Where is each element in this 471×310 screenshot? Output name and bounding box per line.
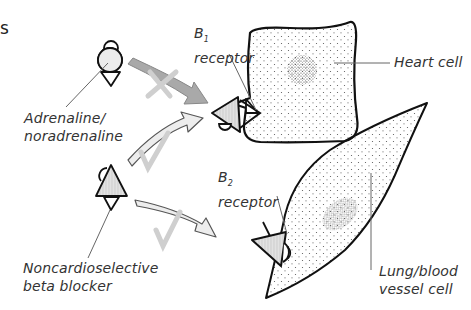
heart-cell-label: Heart cell	[394, 53, 463, 71]
cropped-title-fragment: s	[0, 18, 9, 38]
adrenaline-label-line2: noradrenaline	[24, 127, 123, 145]
tick-mark-icon	[156, 212, 180, 246]
b1-receptor-symbol: B1	[194, 24, 254, 49]
b2-receptor-label: B2 receptor	[218, 168, 278, 211]
adrenaline-label-line1: Adrenaline/	[24, 109, 123, 127]
beta-blocker-label-line1: Noncardioselective	[23, 259, 158, 277]
adrenaline-leader-line	[66, 63, 108, 107]
blocker-leader-line	[88, 210, 110, 258]
beta-blocker-molecule	[96, 165, 127, 210]
beta-blocker-diagram: s Adrenaline/ noradrenaline Noncardiosel…	[0, 0, 471, 310]
lung-cell-label-line2: vessel cell	[379, 280, 458, 298]
heart-cell-nucleus	[287, 55, 317, 85]
b1-receptor-label: B1 receptor	[194, 24, 254, 67]
lung-cell-label: Lung/blood vessel cell	[379, 262, 458, 298]
adrenaline-molecule	[98, 41, 122, 86]
blocker-to-b1-arrow	[128, 112, 203, 168]
beta-blocker-label-line2: beta blocker	[23, 277, 158, 295]
lung-cell-label-line1: Lung/blood	[379, 262, 458, 280]
b1-receptor-word: receptor	[194, 49, 254, 67]
adrenaline-label: Adrenaline/ noradrenaline	[24, 109, 123, 145]
beta-blocker-label: Noncardioselective beta blocker	[23, 259, 158, 295]
b2-receptor-symbol: B2	[218, 168, 278, 193]
blocker-to-b2-arrow	[135, 200, 216, 246]
b2-receptor-word: receptor	[218, 193, 278, 211]
